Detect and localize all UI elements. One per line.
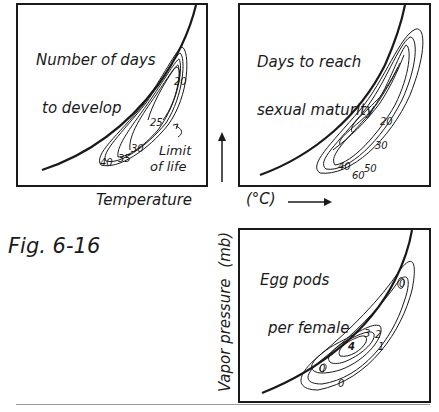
contour-label-20: 20 — [380, 116, 393, 127]
contour-label-30: 30 — [131, 143, 144, 154]
contour-label-0-upper: 0 — [399, 278, 405, 289]
panel-days-to-maturity: Days to reach sexual maturity 20 30 40 5… — [238, 3, 431, 187]
contour-label-0-bottom: 0 — [338, 378, 344, 389]
x-axis-unit: (°C) — [246, 190, 276, 208]
x-axis-arrow-icon — [288, 196, 333, 208]
limit-of-life-label-1: Limit — [159, 143, 192, 158]
contour-label-50: 50 — [364, 163, 377, 174]
contour-label-1: 1 — [378, 341, 384, 352]
contour-label-0-left: 0 — [319, 363, 325, 374]
contour-plot: 20 30 40 50 60 — [240, 5, 433, 189]
panel-days-to-develop: Number of days to develop 20 25 30 35 40… — [16, 3, 208, 187]
y-axis-unit: (mb) — [216, 232, 234, 268]
contour-label-40: 40 — [338, 161, 351, 172]
contour-plot: 4 3 2 1 0 0 0 — [240, 230, 433, 405]
limit-of-life-label-2: of life — [150, 159, 186, 174]
contour-label-60: 60 — [352, 170, 365, 181]
y-axis-label: Vapor pressure (mb) — [216, 232, 234, 392]
contour-label-4: 4 — [347, 341, 355, 352]
contour-label-2: 2 — [375, 329, 381, 340]
horizontal-divider — [16, 404, 430, 405]
figure-label: Fig. 6-16 — [8, 234, 100, 258]
panel-egg-pods: Egg pods per female 4 3 2 1 0 0 0 — [238, 228, 431, 403]
contour-label-40: 40 — [100, 157, 113, 168]
contour-label-30: 30 — [375, 140, 388, 151]
contour-plot: 20 25 30 35 40 Limit of life — [18, 5, 210, 189]
contour-label-3: 3 — [364, 328, 370, 339]
contour-label-20: 20 — [174, 76, 187, 87]
y-axis-arrow-icon — [216, 132, 228, 182]
x-axis-label: Temperature — [96, 191, 192, 209]
y-axis-title: Vapor pressure — [216, 278, 234, 392]
contour-label-25: 25 — [150, 117, 163, 128]
contour-label-35: 35 — [118, 153, 131, 164]
